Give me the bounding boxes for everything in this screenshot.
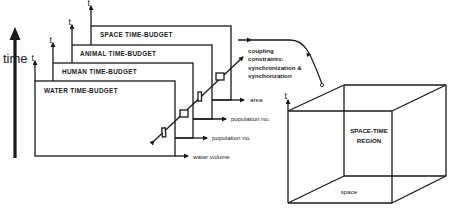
coupling-box — [198, 92, 202, 101]
region-label-line-2: REGION — [357, 137, 382, 144]
coupling-box — [162, 128, 166, 137]
water-output-label: water volume — [192, 153, 230, 160]
coupling-box — [180, 110, 188, 117]
t-axis-label: t — [69, 17, 72, 27]
t-axis-label: t — [50, 35, 53, 45]
coupling-line-1: coupling — [248, 47, 274, 54]
animal-time-budget-label: ANIMAL TIME-BUDGET — [80, 50, 156, 57]
space-time-budget-label: SPACE TIME-BUDGET — [100, 31, 173, 38]
diagram-canvas: time t SPACE TIME-BUDGET area t ANIMAL T… — [0, 0, 454, 212]
arrowhead-up-icon — [10, 27, 21, 40]
coupling-line-3: synchronization & — [248, 64, 302, 71]
coupling-line-2: constraints: — [248, 55, 283, 62]
human-time-budget-label: HUMAN TIME-BUDGET — [62, 68, 137, 75]
space-output-label: area — [250, 96, 263, 103]
time-axis-arrow — [10, 27, 21, 158]
t-axis-label: t — [32, 53, 35, 63]
human-output-label: population no. — [212, 134, 251, 141]
curved-arrow-to-region — [238, 38, 324, 87]
water-time-budget-label: WATER TIME-BUDGET — [44, 87, 118, 94]
region-label-line-1: SPACE-TIME — [350, 127, 388, 134]
time-axis-label: time — [3, 51, 28, 66]
coupling-line-4: synchorization — [248, 72, 292, 79]
coupling-box — [216, 73, 224, 80]
animal-output-label: population no. — [231, 115, 270, 122]
t-axis-label: t — [88, 0, 91, 8]
cube-t-axis-label: t — [285, 91, 288, 101]
space-time-region-cube: t SPACE-TIME REGION space — [285, 85, 447, 203]
cube-base-label: space — [341, 188, 358, 195]
coupling-constraints-note: coupling constraints: synchronization & … — [248, 47, 302, 79]
